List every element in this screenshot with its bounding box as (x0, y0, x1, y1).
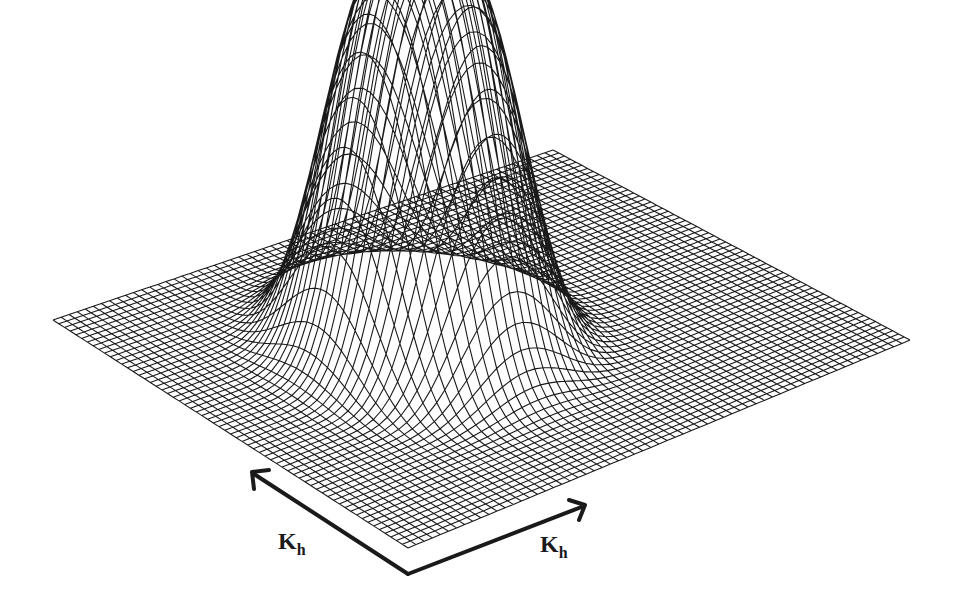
left-axis-label: Kh (278, 528, 306, 559)
surface-mesh (53, 0, 910, 548)
wireframe-surface-plot (0, 0, 955, 599)
left-axis-label-main: K (278, 528, 297, 554)
right-axis-label-main: K (540, 531, 559, 557)
right-axis-label-sub: h (559, 544, 568, 561)
mesh-lines (53, 0, 910, 548)
right-axis-label: Kh (540, 531, 568, 562)
left-axis-label-sub: h (297, 541, 306, 558)
